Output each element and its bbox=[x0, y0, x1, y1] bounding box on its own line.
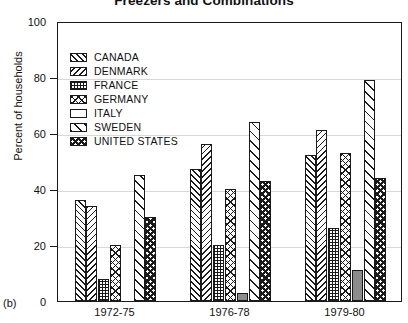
legend-label-denmark: DENMARK bbox=[94, 65, 148, 77]
legend-item-france: FRANCE bbox=[70, 78, 178, 92]
legend-swatch-united-states bbox=[70, 137, 87, 146]
y-tick-label: 20 bbox=[0, 240, 46, 252]
legend-swatch-france bbox=[70, 81, 87, 90]
y-axis-label: Percent of households bbox=[12, 26, 24, 186]
bar-denmark-1972-75 bbox=[86, 206, 97, 301]
bar-united-states-1976-78 bbox=[260, 181, 271, 301]
bar-canada-1976-78 bbox=[190, 169, 201, 301]
bar-sweden-1979-80 bbox=[364, 80, 375, 301]
x-tick-label: 1979-80 bbox=[324, 306, 364, 318]
bar-italy-1979-80 bbox=[352, 270, 363, 301]
legend-swatch-canada bbox=[70, 53, 87, 62]
y-tick-label: 100 bbox=[0, 16, 46, 28]
bar-sweden-1976-78 bbox=[249, 122, 260, 301]
bar-united-states-1972-75 bbox=[145, 217, 156, 301]
legend-swatch-denmark bbox=[70, 67, 87, 76]
bar-germany-1979-80 bbox=[340, 153, 351, 301]
legend-item-united-states: UNITED STATES bbox=[70, 134, 178, 148]
legend-item-denmark: DENMARK bbox=[70, 64, 178, 78]
y-tick-mark bbox=[50, 134, 57, 135]
legend-label-sweden: SWEDEN bbox=[94, 121, 141, 133]
legend-label-france: FRANCE bbox=[94, 79, 138, 91]
bar-france-1976-78 bbox=[213, 245, 224, 301]
legend-item-germany: GERMANY bbox=[70, 92, 178, 106]
bar-denmark-1979-80 bbox=[316, 130, 327, 301]
bar-germany-1972-75 bbox=[110, 245, 121, 301]
bar-sweden-1972-75 bbox=[134, 175, 145, 301]
y-tick-label: 40 bbox=[0, 184, 46, 196]
bar-denmark-1976-78 bbox=[201, 144, 212, 301]
y-tick-mark bbox=[50, 190, 57, 191]
y-tick-mark bbox=[50, 78, 57, 79]
y-tick-mark bbox=[50, 246, 57, 247]
legend-swatch-sweden bbox=[70, 123, 87, 132]
y-tick-label: 0 bbox=[0, 296, 46, 308]
x-tick-label: 1976-78 bbox=[209, 306, 249, 318]
y-tick-label: 80 bbox=[0, 72, 46, 84]
legend-label-canada: CANADA bbox=[94, 51, 139, 63]
legend-item-canada: CANADA bbox=[70, 50, 178, 64]
bar-italy-1976-78 bbox=[237, 293, 248, 301]
legend-item-sweden: SWEDEN bbox=[70, 120, 178, 134]
bar-france-1979-80 bbox=[328, 228, 339, 301]
bar-canada-1972-75 bbox=[75, 200, 86, 301]
legend-swatch-germany bbox=[70, 95, 87, 104]
legend-label-germany: GERMANY bbox=[94, 93, 149, 105]
bar-united-states-1979-80 bbox=[375, 178, 386, 301]
x-tick-label: 1972-75 bbox=[94, 306, 134, 318]
chart-title: Freezers and Combinations bbox=[0, 0, 408, 8]
legend-label-italy: ITALY bbox=[94, 107, 123, 119]
legend-item-italy: ITALY bbox=[70, 106, 178, 120]
y-tick-label: 60 bbox=[0, 128, 46, 140]
bar-germany-1976-78 bbox=[225, 189, 236, 301]
chart-legend: CANADADENMARKFRANCEGERMANYITALYSWEDENUNI… bbox=[70, 50, 178, 148]
bar-france-1972-75 bbox=[98, 279, 109, 301]
legend-swatch-italy bbox=[70, 109, 87, 118]
legend-label-united-states: UNITED STATES bbox=[94, 135, 178, 147]
bar-canada-1979-80 bbox=[305, 155, 316, 301]
